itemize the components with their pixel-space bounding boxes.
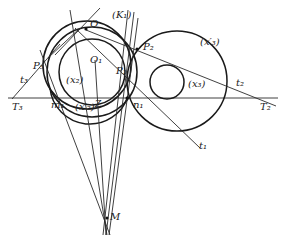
label-t1: t₁ bbox=[199, 140, 207, 151]
point-n1 bbox=[126, 97, 129, 100]
label-t3: t₃ bbox=[20, 74, 28, 85]
circle-x3 bbox=[150, 65, 184, 99]
label-p1: P₁ bbox=[115, 65, 127, 76]
label-z: Z bbox=[94, 99, 102, 109]
point-m bbox=[106, 217, 109, 220]
point-p2 bbox=[136, 48, 139, 51]
label-m: M bbox=[109, 211, 121, 222]
label-t2-point: T₂ bbox=[260, 101, 271, 112]
label-t3-point: T₃ bbox=[12, 101, 23, 112]
line-t2 bbox=[86, 30, 276, 106]
point-q bbox=[84, 27, 87, 30]
label-t2: t₂ bbox=[236, 77, 244, 88]
label-q: Q bbox=[90, 18, 98, 29]
label-o1: O₁ bbox=[90, 54, 102, 65]
geometry-diagram: (K₁) Q O₁ P₁ P₂ P₃ (x₂) (x′₂) (x₃) (x′₃)… bbox=[0, 0, 287, 242]
label-x2-prime: (x′₂) bbox=[75, 101, 95, 112]
line-t3 bbox=[12, 44, 60, 99]
label-x2: (x₂) bbox=[66, 74, 84, 85]
label-p2: P₂ bbox=[142, 41, 154, 52]
line-q-2 bbox=[55, 8, 100, 55]
label-k1: (K₁) bbox=[112, 9, 131, 20]
label-x3-prime: (x′₃) bbox=[200, 36, 220, 47]
label-p3: P₃ bbox=[32, 60, 44, 71]
label-x3: (x₃) bbox=[188, 78, 206, 89]
line-t1 bbox=[75, 28, 200, 148]
line-m-4 bbox=[106, 12, 134, 235]
label-n1: n₁ bbox=[133, 99, 143, 110]
label-m1: m₁ bbox=[51, 99, 65, 110]
